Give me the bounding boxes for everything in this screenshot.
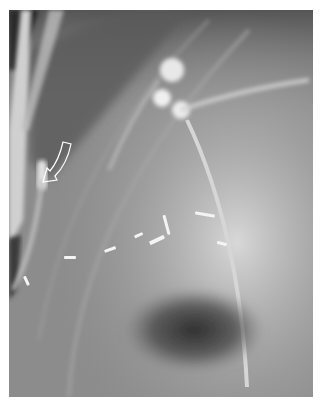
gas-lucency (124, 288, 264, 372)
radiograph-svg (9, 10, 313, 397)
radiograph-image (9, 10, 313, 397)
